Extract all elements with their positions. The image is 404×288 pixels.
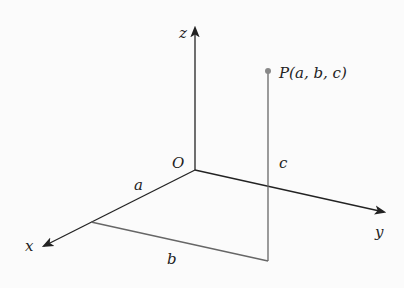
point-p-dot xyxy=(265,68,271,74)
segment-b-label: b xyxy=(167,250,177,268)
origin-label: O xyxy=(172,154,184,172)
y-axis xyxy=(195,170,384,212)
y-axis-label: y xyxy=(374,223,384,241)
segment-c-label: c xyxy=(279,154,288,172)
segment-b-line xyxy=(91,222,268,261)
coordinate-diagram: z x y O a b c P(a, b, c) xyxy=(0,0,404,288)
x-axis-label: x xyxy=(25,237,34,255)
segment-a-label: a xyxy=(134,176,143,194)
x-axis xyxy=(44,170,195,246)
point-p-label: P(a, b, c) xyxy=(278,64,347,82)
z-axis-label: z xyxy=(178,24,187,42)
